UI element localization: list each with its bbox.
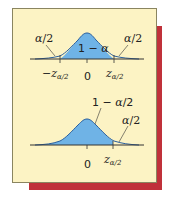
left-tail-pointer (46, 45, 55, 56)
shaded-area-label: 1 − α/2 (92, 96, 133, 109)
right-tail-label: α/2 (122, 114, 140, 127)
tick-label-pos-z: zα/2 (105, 67, 124, 81)
tick-label-pos-z: zα/2 (103, 153, 122, 167)
shaded-area (35, 119, 113, 145)
normal-distribution-figure: α/2 α/2 1 − α −zα/2 0 zα/2 1 − α/2 α/2 0… (0, 0, 174, 202)
right-tail-pointer (119, 126, 128, 142)
two-tailed-diagram: α/2 α/2 1 − α −zα/2 0 zα/2 (30, 32, 144, 83)
tick-label-zero: 0 (84, 70, 91, 83)
right-tail-pointer (119, 45, 128, 56)
right-tail-label: α/2 (124, 32, 142, 45)
center-area-label: 1 − α (78, 42, 109, 55)
left-tail-label: α/2 (35, 32, 53, 45)
tick-label-zero: 0 (84, 158, 91, 171)
shaded-label-pointer (95, 108, 101, 124)
tick-label-neg-z: −zα/2 (42, 67, 69, 81)
one-tailed-diagram: 1 − α/2 α/2 0 zα/2 (30, 96, 144, 171)
